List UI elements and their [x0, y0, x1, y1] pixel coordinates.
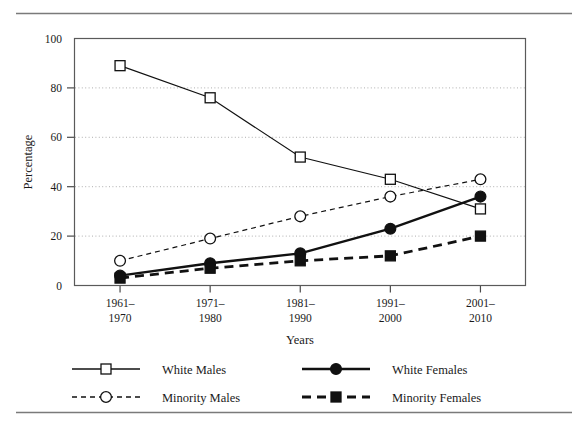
data-point — [295, 211, 306, 222]
legend-item-white-females[interactable]: White Females — [302, 363, 467, 377]
series-minority-females — [115, 231, 485, 283]
legend-marker — [331, 364, 342, 375]
data-point — [115, 255, 126, 266]
line-chart: 020406080100 1961–19701971–19801981–1990… — [0, 0, 588, 433]
x-tick-label: 1981–1990 — [286, 297, 315, 324]
chart-figure: 020406080100 1961–19701971–19801981–1990… — [0, 0, 588, 433]
x-tick-label: 1991–2000 — [376, 297, 405, 324]
data-point — [295, 256, 305, 266]
legend-label: Minority Females — [392, 391, 481, 405]
y-axis-title: Percentage — [21, 134, 35, 189]
x-tick-label: 1971–1980 — [196, 297, 225, 324]
y-tick-label: 0 — [56, 280, 62, 292]
data-point — [115, 61, 125, 71]
data-point — [385, 191, 396, 202]
data-point — [385, 174, 395, 184]
legend-label: White Females — [392, 363, 467, 377]
x-tick-label: 2001–2010 — [466, 297, 495, 324]
data-point — [475, 231, 485, 241]
y-tick-label: 20 — [51, 230, 63, 242]
x-tick-label: 1961–1970 — [106, 297, 135, 324]
data-series-layer — [115, 61, 486, 283]
data-point — [475, 174, 486, 185]
legend-item-minority-males[interactable]: Minority Males — [72, 391, 240, 405]
legend-marker — [101, 392, 112, 403]
y-tick-label: 100 — [45, 33, 63, 45]
data-point — [205, 233, 216, 244]
y-tick-label: 40 — [51, 181, 63, 193]
legend-item-white-males[interactable]: White Males — [72, 363, 226, 377]
y-tick-label: 60 — [51, 131, 63, 143]
y-axis-tick-labels: 020406080100 — [45, 33, 63, 292]
data-point — [115, 273, 125, 283]
data-point — [385, 223, 396, 234]
y-tick-label: 80 — [51, 82, 63, 94]
data-point — [385, 251, 395, 261]
legend-label: Minority Males — [162, 391, 240, 405]
data-point — [205, 93, 215, 103]
data-point — [205, 263, 215, 273]
data-point — [475, 204, 485, 214]
legend-label: White Males — [162, 363, 226, 377]
legend-marker — [331, 392, 341, 402]
legend-item-minority-females[interactable]: Minority Females — [302, 391, 481, 405]
x-axis-tick-labels: 1961–19701971–19801981–19901991–20002001… — [106, 297, 495, 324]
x-axis-title: Years — [286, 333, 314, 347]
data-point — [295, 152, 305, 162]
data-point — [475, 191, 486, 202]
chart-legend: White MalesWhite FemalesMinority MalesMi… — [72, 363, 481, 405]
legend-marker — [101, 364, 111, 374]
